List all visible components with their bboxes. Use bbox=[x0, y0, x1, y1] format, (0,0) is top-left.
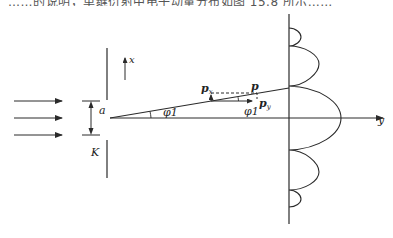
slit-label: K bbox=[90, 146, 100, 159]
slit-width-label: a bbox=[99, 104, 106, 117]
diffraction-diagram: a K x y φ1 px p py φ1 bbox=[0, 0, 393, 238]
px-label: px bbox=[201, 82, 213, 96]
incident-beams bbox=[14, 101, 62, 135]
slit-width-dimension bbox=[82, 101, 100, 135]
x-axis-label: x bbox=[129, 54, 135, 65]
angle-label-slit: φ1 bbox=[163, 106, 178, 119]
angle-arc-slit bbox=[150, 111, 151, 118]
y-axis-label: y bbox=[377, 114, 385, 127]
angle-arc-momentum bbox=[238, 97, 239, 101]
py-label: py bbox=[259, 97, 272, 111]
p-label: p bbox=[251, 80, 259, 93]
angle-label-momentum: φ1 bbox=[244, 105, 259, 118]
